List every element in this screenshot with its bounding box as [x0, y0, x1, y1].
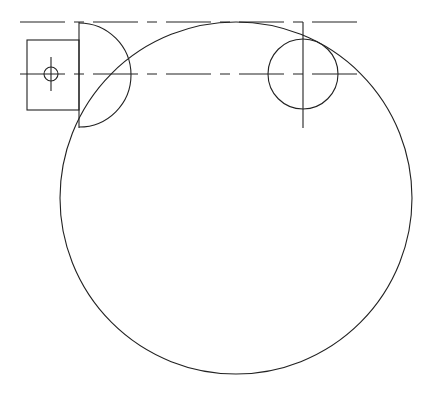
drawing-canvas: [0, 0, 428, 400]
large-circle: [60, 22, 412, 374]
left-block: [27, 40, 79, 110]
left-half-circle: [79, 23, 131, 127]
technical-drawing: [0, 0, 428, 400]
